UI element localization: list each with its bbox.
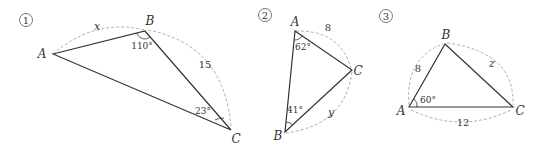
angle-b-label: 41°	[287, 105, 303, 115]
side-ab-label: x	[94, 20, 101, 33]
vertex-b-label: B	[145, 14, 155, 28]
vertex-b-label: B	[441, 28, 451, 42]
figure-1-number: 1	[23, 15, 29, 26]
vertex-c-label: C	[353, 64, 362, 78]
vertex-a-label: A	[396, 104, 406, 118]
figure-2: 2 A C B 8 y 62° 41°	[259, 9, 363, 144]
side-bc-label: y	[327, 106, 335, 119]
angle-a-marker	[414, 99, 417, 107]
side-bc-dimension-arc	[286, 72, 352, 133]
side-bc-label: z	[488, 57, 495, 70]
vertex-b-label: B	[273, 129, 283, 143]
side-bc-label: 15	[199, 59, 212, 70]
figure-1: 1 A B C x 15 110° 23°	[20, 14, 241, 147]
angle-a-label: 62°	[295, 42, 311, 52]
triangle-diagram: 1 A B C x 15 110° 23° 2 A C B 8 y 62° 41…	[0, 0, 537, 148]
angle-a-label: 60°	[420, 95, 436, 105]
figure-3-number: 3	[383, 11, 389, 22]
vertex-a-label: A	[290, 15, 300, 29]
side-ab-label: 8	[415, 63, 421, 74]
angle-b-marker	[286, 122, 293, 125]
angle-c-label: 23°	[195, 106, 211, 116]
figure-2-number: 2	[262, 10, 268, 21]
angle-a-marker	[294, 36, 302, 40]
angle-b-label: 110°	[131, 41, 153, 51]
vertex-c-label: C	[515, 104, 524, 118]
side-bc-dimension-arc	[148, 30, 231, 128]
side-bc-dimension-arc	[447, 43, 513, 105]
side-ac-label: 8	[325, 22, 331, 33]
figure-3: 3 B A C 8 z 12 60°	[380, 10, 525, 129]
side-ac-label: 12	[457, 117, 470, 128]
vertex-a-label: A	[37, 47, 47, 61]
vertex-c-label: C	[231, 132, 240, 146]
